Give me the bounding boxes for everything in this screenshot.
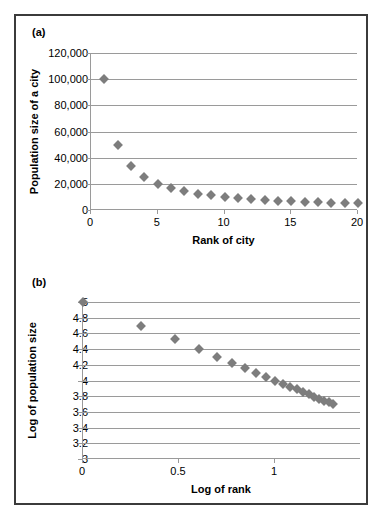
data-point-marker (246, 194, 256, 204)
data-point-marker (340, 198, 350, 208)
x-axis-tick-label: 0.5 (170, 465, 185, 477)
figure-container: (a) Population size of a city 020,00040,… (14, 14, 368, 505)
x-axis-tick-mark (274, 459, 275, 463)
y-axis-tick-label: 120,000 (20, 47, 88, 59)
x-axis-tick-label: 1 (271, 465, 277, 477)
data-point-marker (113, 140, 123, 150)
gridline (91, 158, 357, 159)
data-point-marker (179, 186, 189, 196)
data-point-marker (99, 74, 109, 84)
panel-b-x-axis-label: Log of rank (82, 483, 360, 495)
gridline (91, 132, 357, 133)
y-axis-tick-label: 100,000 (20, 73, 88, 85)
x-axis-tick-mark (290, 210, 291, 214)
panel-a-y-tick-group: 020,00040,00060,00080,000100,000120,000 (16, 16, 88, 268)
gridline (83, 349, 360, 350)
x-axis-tick-label: 10 (217, 216, 229, 228)
x-axis-tick-label: 0 (87, 216, 93, 228)
x-axis-tick-mark (82, 459, 83, 463)
data-point-marker (220, 192, 230, 202)
x-axis-tick-mark (90, 210, 91, 214)
gridline (91, 79, 357, 80)
gridline (83, 365, 360, 366)
y-axis-tick-label: 80,000 (20, 99, 88, 111)
chart-panel-a: (a) Population size of a city 020,00040,… (16, 16, 366, 268)
gridline (91, 105, 357, 106)
x-axis-tick-mark (178, 459, 179, 463)
data-point-marker (313, 197, 323, 207)
panel-b-plot-area (82, 302, 360, 459)
data-point-marker (227, 358, 237, 368)
data-point-marker (273, 196, 283, 206)
x-axis-tick-mark (157, 210, 158, 214)
y-axis-tick-label: 0 (20, 204, 88, 216)
gridline (91, 53, 357, 54)
y-axis-tick-label: 60,000 (20, 126, 88, 138)
gridline (83, 443, 360, 444)
gridline (83, 302, 360, 303)
gridline (91, 184, 357, 185)
gridline (83, 381, 360, 382)
panel-a-x-axis-label: Rank of city (90, 234, 357, 246)
gridline (83, 333, 360, 334)
data-point-marker (126, 161, 136, 171)
x-axis-tick-label: 15 (284, 216, 296, 228)
data-point-marker (170, 334, 180, 344)
y-axis-tick-label: 40,000 (20, 152, 88, 164)
data-point-marker (326, 198, 336, 208)
data-point-marker (206, 191, 216, 201)
data-point-marker (136, 321, 146, 331)
data-point-marker (300, 197, 310, 207)
x-axis-tick-label: 0 (79, 465, 85, 477)
data-point-marker (153, 179, 163, 189)
data-point-marker (233, 193, 243, 203)
data-point-marker (212, 352, 222, 362)
gridline (83, 318, 360, 319)
chart-panel-b: (b) Log of population size 33.23.43.63.8… (16, 268, 366, 505)
x-axis-tick-label: 20 (351, 216, 363, 228)
panel-b-y-tick-group: 33.23.43.63.844.24.44.64.85 (16, 268, 88, 505)
y-axis-tick-label: 20,000 (20, 178, 88, 190)
x-axis-tick-mark (224, 210, 225, 214)
data-point-marker (194, 344, 204, 354)
data-point-marker (286, 196, 296, 206)
data-point-marker (139, 172, 149, 182)
x-axis-tick-label: 5 (154, 216, 160, 228)
gridline (83, 428, 360, 429)
data-point-marker (193, 189, 203, 199)
gridline (83, 412, 360, 413)
data-point-marker (260, 195, 270, 205)
panel-a-plot-area (90, 53, 357, 210)
data-point-marker (353, 199, 363, 209)
x-axis-tick-mark (357, 210, 358, 214)
